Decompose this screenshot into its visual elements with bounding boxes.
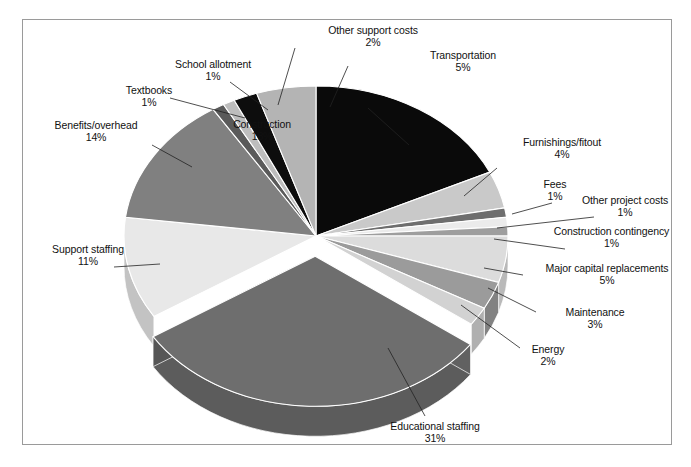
label-construction-contingency-value: 1%	[534, 237, 689, 249]
label-construction: Construction 18%	[187, 118, 337, 142]
label-other-project-costs: Other project costs 1%	[560, 194, 690, 218]
label-maintenance-value: 3%	[540, 318, 650, 330]
label-textbooks: Textbooks 1%	[94, 84, 204, 108]
label-benefits-overhead-name: Benefits/overhead	[55, 119, 138, 131]
label-educational-staffing-name: Educational staffing	[390, 420, 479, 432]
label-other-support-costs-name: Other support costs	[328, 24, 418, 36]
label-transportation-name: Transportation	[430, 49, 496, 61]
label-construction-value: 18%	[187, 130, 337, 142]
label-energy: Energy 2%	[508, 343, 588, 367]
label-other-support-costs: Other support costs 2%	[288, 24, 458, 48]
label-school-allotment-value: 1%	[143, 70, 283, 82]
label-school-allotment: School allotment 1%	[143, 58, 283, 82]
label-other-project-costs-name: Other project costs	[582, 194, 668, 206]
label-major-capital-replacements-name: Major capital replacements	[546, 262, 669, 274]
label-transportation: Transportation 5%	[398, 49, 528, 73]
label-school-allotment-name: School allotment	[175, 58, 251, 70]
label-energy-value: 2%	[508, 355, 588, 367]
leader-line-8	[512, 203, 552, 214]
label-support-staffing: Support staffing 11%	[18, 243, 158, 267]
label-construction-contingency: Construction contingency 1%	[534, 225, 689, 249]
label-maintenance: Maintenance 3%	[540, 306, 650, 330]
label-support-staffing-value: 11%	[18, 255, 158, 267]
label-major-capital-replacements-value: 5%	[524, 274, 690, 286]
label-textbooks-value: 1%	[94, 96, 204, 108]
label-other-project-costs-value: 1%	[560, 206, 690, 218]
label-construction-name: Construction	[233, 118, 291, 130]
label-support-staffing-name: Support staffing	[52, 243, 124, 255]
label-maintenance-name: Maintenance	[565, 306, 624, 318]
label-benefits-overhead-value: 14%	[16, 131, 176, 143]
label-major-capital-replacements: Major capital replacements 5%	[524, 262, 690, 286]
label-furnishings-fitout-name: Furnishings/fitout	[523, 136, 601, 148]
label-textbooks-name: Textbooks	[126, 84, 172, 96]
label-educational-staffing: Educational staffing 31%	[360, 420, 510, 444]
label-energy-name: Energy	[532, 343, 565, 355]
chart-canvas: Other support costs 2% School allotment …	[0, 0, 691, 467]
label-transportation-value: 5%	[398, 61, 528, 73]
label-benefits-overhead: Benefits/overhead 14%	[16, 119, 176, 143]
label-furnishings-fitout: Furnishings/fitout 4%	[492, 136, 632, 160]
label-furnishings-fitout-value: 4%	[492, 148, 632, 160]
label-construction-contingency-name: Construction contingency	[554, 225, 670, 237]
label-fees-name: Fees	[544, 178, 567, 190]
label-other-support-costs-value: 2%	[288, 36, 458, 48]
label-educational-staffing-value: 31%	[360, 432, 510, 444]
